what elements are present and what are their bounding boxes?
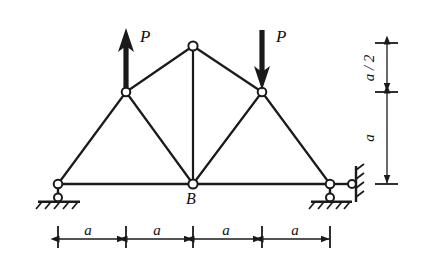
load-left-label: P [139,27,150,46]
left-support-pin [54,194,62,202]
load-arrow-left-up [118,28,134,88]
truss-members [58,46,330,184]
figure-canvas: P P B a a a a [0,0,425,266]
joint-bottom-center [188,179,197,188]
dim-span-1-label: a [84,222,92,238]
truss-diagram: P P B a a a a [0,0,425,266]
member-left-upper-rafter [126,46,193,92]
left-support [36,188,80,209]
right-support [309,164,364,209]
member-right-web-diagonal [193,92,262,184]
right-support-wall-hatching [356,164,364,197]
horizontal-dimension-chain [58,226,330,248]
dimension-ticks [58,226,330,248]
joint-left-support [54,180,63,189]
dim-span-3-label: a [222,222,230,238]
member-right-upper-rafter [193,46,262,92]
joint-apex [188,41,197,50]
joint-b-label: B [186,190,196,207]
right-support-pin [326,194,334,202]
member-left-web-diagonal [126,92,193,184]
load-arrow-right-down [254,30,270,90]
vertical-dimension-chain [375,43,398,184]
vertical-dim-lower-label: a [361,134,377,142]
joint-right-support [326,180,335,189]
load-right-label: P [275,27,286,46]
member-right-lower-diagonal [262,92,330,184]
joint-left-top [122,88,131,97]
dim-span-2-label: a [153,222,161,238]
dim-span-4-label: a [291,222,299,238]
member-left-lower-diagonal [58,92,126,184]
vertical-dim-upper-label: a / 2 [361,54,377,81]
